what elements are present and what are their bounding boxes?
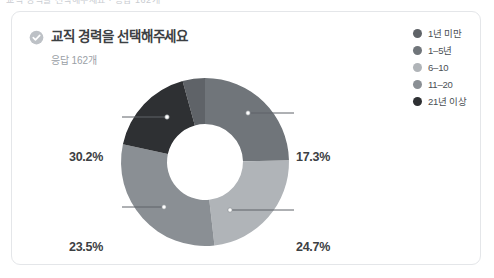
legend-item[interactable]: 1–5년 xyxy=(413,44,467,56)
legend-item[interactable]: 1년 미만 xyxy=(413,27,467,39)
donut-slice[interactable] xyxy=(209,160,289,245)
slice-percent-label-1-5: 24.7% xyxy=(296,240,330,254)
question-result-card: 교직 경력을 선택해주세요 응답 162개 1년 미만 1–5년 6–10 11… xyxy=(11,11,481,265)
callout-dot-bottom-left xyxy=(162,205,166,209)
slice-percent-label-6-10: 23.5% xyxy=(69,240,103,254)
callout-dot-bottom-right xyxy=(228,208,232,212)
clipped-top-text: 교직 경력을 선택해주세요 · 응답 162개 xyxy=(0,0,494,9)
clipped-top-text-label: 교직 경력을 선택해주세요 · 응답 162개 xyxy=(6,0,160,5)
question-title-row: 교직 경력을 선택해주세요 xyxy=(29,29,359,45)
donut-slices xyxy=(121,78,289,246)
donut-chart[interactable]: 30.2% 23.5% 17.3% 24.7% xyxy=(12,58,480,264)
donut-slice[interactable] xyxy=(205,78,289,161)
callout-dot-top-right xyxy=(246,111,250,115)
verified-check-icon xyxy=(29,30,44,45)
slice-percent-label-21plus: 17.3% xyxy=(296,150,330,164)
page-title: 교직 경력을 선택해주세요 xyxy=(51,29,188,45)
legend-item-label: 1년 미만 xyxy=(428,26,462,40)
callout-dot-top-left xyxy=(165,115,169,119)
legend-swatch-icon xyxy=(413,46,422,55)
donut-slice[interactable] xyxy=(121,144,214,246)
legend-item-label: 1–5년 xyxy=(428,43,452,57)
slice-percent-label-11-20: 30.2% xyxy=(69,150,103,164)
legend-swatch-icon xyxy=(413,29,422,38)
